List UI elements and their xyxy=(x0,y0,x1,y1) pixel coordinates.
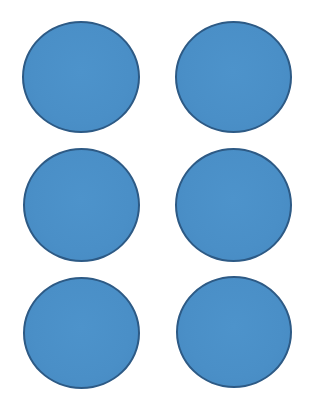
circle-label-r3-c2 xyxy=(176,276,292,388)
circle-label-r3-c1 xyxy=(23,277,140,389)
circle-label-r2-c2 xyxy=(175,148,292,262)
circle-label-r1-c1 xyxy=(22,21,140,133)
label-sheet xyxy=(0,0,311,402)
circle-label-r2-c1 xyxy=(23,148,140,262)
circle-label-r1-c2 xyxy=(175,21,292,133)
